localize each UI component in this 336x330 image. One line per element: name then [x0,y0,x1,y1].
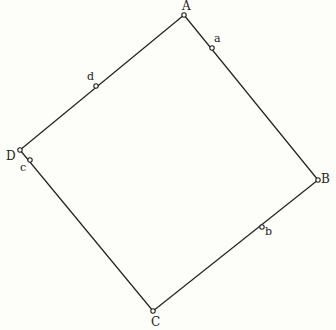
labels: ABCDabcd [6,0,330,329]
edges [20,15,318,311]
square-diagram: ABCDabcd [0,0,336,330]
midpoint-label-c: c [20,161,26,174]
midpoint-point-c [28,158,32,162]
edge-cd [20,150,153,311]
vertex-label-A: A [181,0,191,13]
edge-da [20,15,184,150]
midpoint-point-b [260,225,264,229]
vertex-label-D: D [6,149,16,163]
midpoint-label-b: b [265,225,272,238]
vertex-point-C [151,309,155,313]
vertex-point-B [316,178,320,182]
vertex-point-A [182,13,186,17]
midpoint-point-d [94,84,98,88]
midpoint-label-d: d [87,70,94,83]
vertex-label-B: B [321,172,330,186]
points [18,13,320,313]
vertex-point-D [18,148,22,152]
edge-ab [184,15,318,180]
midpoint-point-a [210,46,214,50]
vertex-label-C: C [151,315,160,329]
midpoint-label-a: a [214,32,221,45]
edge-bc [153,180,318,311]
